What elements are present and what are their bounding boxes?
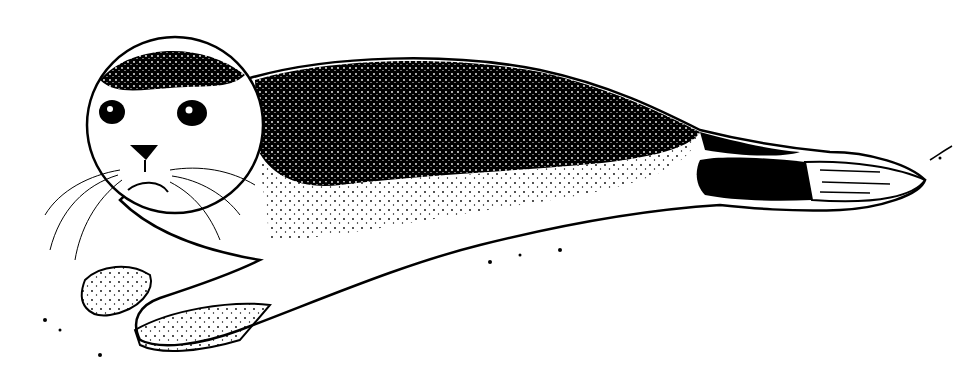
seal-illustration [0,0,959,384]
right-eye [177,100,207,126]
illustration-canvas: Harbor seal lying on its belly, head to … [0,0,959,384]
left-eye [99,100,125,124]
